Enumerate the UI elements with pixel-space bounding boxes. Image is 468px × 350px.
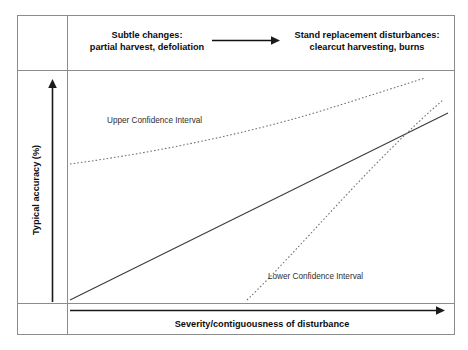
plot-curves <box>70 78 448 300</box>
y-axis-title: Typical accuracy (%) <box>31 145 41 235</box>
upper-confidence-interval-label: Upper Confidence Interval <box>107 116 202 125</box>
outer-border <box>18 16 455 335</box>
header-left-line2: partial harvest, defoliation <box>90 42 205 52</box>
header-band: Subtle changes: partial harvest, defolia… <box>90 30 440 52</box>
gradient-arrow-icon <box>212 36 280 44</box>
y-axis-arrow <box>48 79 57 302</box>
lower-confidence-interval-label: Lower Confidence Interval <box>268 272 363 281</box>
curve-annotations: Upper Confidence Interval Lower Confiden… <box>107 116 363 281</box>
header-left-line1: Subtle changes: <box>112 30 183 40</box>
header-right-line1: Stand replacement disturbances: <box>295 30 440 40</box>
x-axis-title: Severity/contiguousness of disturbance <box>175 319 350 329</box>
x-axis-arrow <box>70 306 445 315</box>
header-right-line2: clearcut harvesting, burns <box>310 42 425 52</box>
figure-frame <box>18 16 455 335</box>
y-axis-title-cell: Typical accuracy (%) <box>31 145 41 235</box>
disturbance-accuracy-figure: Subtle changes: partial harvest, defolia… <box>0 0 468 350</box>
mean-trend-line <box>70 113 448 300</box>
